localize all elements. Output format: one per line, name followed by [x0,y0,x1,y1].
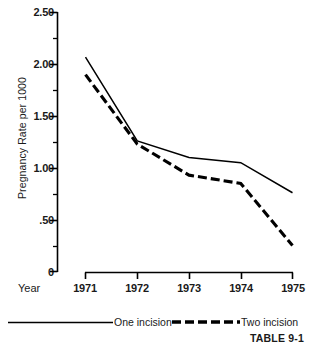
series-line-two-incision [86,75,293,246]
y-axis [50,12,58,272]
legend-label-one-incision: One incision [114,316,172,328]
legend-label-two-incision: Two incision [241,316,298,328]
series-line-one-incision [86,57,293,193]
table-caption-tag: TABLE 9-1 [250,332,304,344]
chart-figure: Pregnancy Rate per 1000 2.50 2.00 1.50 1… [0,0,312,349]
x-axis [85,273,293,280]
chart-canvas [0,0,312,349]
